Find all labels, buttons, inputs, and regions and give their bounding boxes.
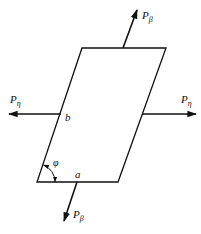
label-side-b: b [65,111,71,123]
force-diagram: Pβ Pβ Pη Pη b a φ [0,0,201,234]
label-sub: β [148,15,153,24]
label-angle-phi: φ [53,157,59,168]
label-p-beta-bottom: Pβ [72,208,84,223]
label-p-eta-left: Pη [9,93,21,108]
label-p-eta-right: Pη [180,93,192,108]
label-side-a: a [75,168,81,180]
arrow-p-beta-top [123,10,137,48]
label-sub: η [17,99,21,108]
label-sub: η [188,99,192,108]
label-sub: β [79,214,84,223]
label-p-beta-top: Pβ [141,9,153,24]
